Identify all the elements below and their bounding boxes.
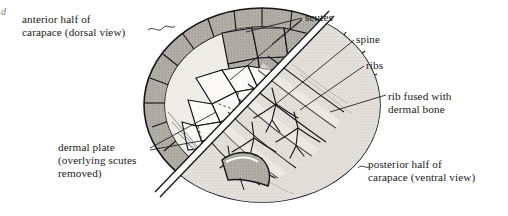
label-posterior-half: posterior half of carapace (ventral view… xyxy=(368,158,475,184)
figure-canvas: d xyxy=(0,0,508,216)
label-spine: spine xyxy=(356,33,380,46)
label-anterior-half: anterior half of carapace (dorsal view) xyxy=(22,13,125,39)
label-ribs: ribs xyxy=(366,59,383,72)
label-rib-fused: rib fused with dermal bone xyxy=(388,90,452,116)
label-scutes: scutes xyxy=(305,11,333,24)
leader-anterior-squiggle xyxy=(148,26,175,30)
label-dermal-plate: dermal plate (overlying scutes removed) xyxy=(58,141,136,181)
